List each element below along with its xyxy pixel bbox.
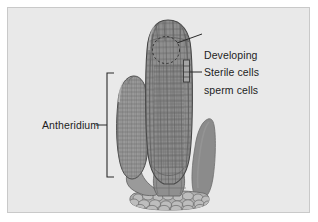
label-antheridium: Antheridium xyxy=(42,120,99,132)
illustration-panel: Developing sperm cells Sterile cells Ant… xyxy=(7,7,310,213)
central-antheridium xyxy=(142,16,196,196)
antheridium-illustration xyxy=(8,8,310,213)
sterile-cells-region xyxy=(184,60,190,82)
antheridium-bracket xyxy=(107,73,114,177)
figure-root: Developing sperm cells Sterile cells Ant… xyxy=(0,0,318,222)
label-developing-sperm-cells-line2: sperm cells xyxy=(204,85,258,97)
right-antheridium xyxy=(192,119,215,199)
label-sterile-cells: Sterile cells xyxy=(204,67,259,79)
label-developing-sperm-cells-line1: Developing xyxy=(204,50,258,62)
